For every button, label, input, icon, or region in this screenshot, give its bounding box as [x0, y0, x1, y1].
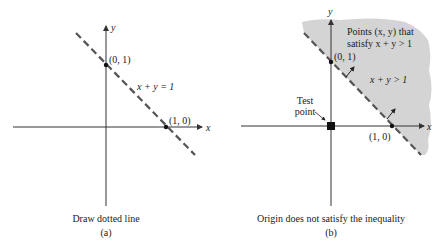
point-0-1 [104, 63, 108, 67]
point-1-0 [164, 125, 168, 129]
point-0-1 [329, 60, 333, 64]
label-1-0: (1, 0) [169, 115, 191, 127]
figure: x y (0, 1) (1, 0) x + y = 1 Draw dotted … [0, 0, 443, 252]
label-1-0: (1, 0) [369, 131, 391, 143]
region-label-line1: Points (x, y) that [347, 26, 414, 38]
caption-a: Draw dotted line [72, 213, 140, 224]
test-point-label-line2: point [295, 106, 316, 117]
inequality-label: x + y > 1 [369, 74, 407, 85]
sublabel-b: (b) [325, 227, 337, 239]
x-axis-label: x [205, 122, 211, 133]
label-0-1: (0, 1) [334, 51, 356, 63]
sublabel-a: (a) [100, 227, 111, 239]
y-axis-label: y [110, 22, 116, 33]
test-point-label-line1: Test [297, 95, 314, 106]
panel-a: x y (0, 1) (1, 0) x + y = 1 Draw dotted … [13, 22, 211, 239]
point-1-0 [390, 124, 394, 128]
label-0-1: (0, 1) [109, 54, 131, 66]
x-axis-label: x [426, 121, 432, 132]
caption-b: Origin does not satisfy the inequality [257, 213, 405, 224]
line-equation-label: x + y = 1 [136, 81, 174, 92]
test-point-marker [327, 122, 335, 130]
panel-b: x y (0, 1) (1, 0) Points (x, y) that sat… [241, 6, 432, 239]
region-label-line2: satisfy x + y > 1 [347, 38, 412, 49]
y-axis-label: y [327, 6, 333, 17]
test-point-pointer [315, 112, 325, 120]
dashed-boundary-line [76, 33, 195, 155]
